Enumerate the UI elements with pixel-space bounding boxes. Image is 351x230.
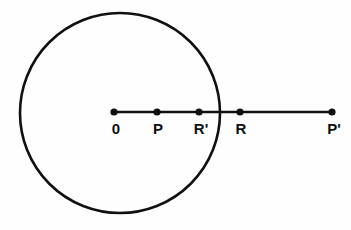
point-label-r: R [236, 121, 247, 136]
point-label-r-prime: R' [194, 121, 208, 136]
point-dot-p [153, 108, 160, 115]
geometry-figure: 0 P R' R P' [0, 0, 351, 230]
point-dot-origin [110, 108, 117, 115]
point-dot-p-prime [328, 108, 335, 115]
point-dot-r [236, 108, 243, 115]
diagram-canvas [0, 0, 351, 230]
point-label-p-prime: P' [327, 121, 341, 136]
point-label-origin: 0 [112, 121, 120, 136]
point-label-p: P [153, 121, 163, 136]
point-dot-r-prime [195, 108, 202, 115]
